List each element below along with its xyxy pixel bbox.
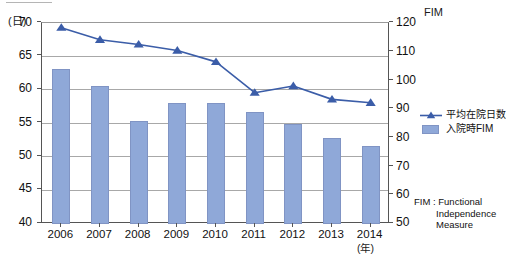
chart-footnote: FIM : Functional Independence Measure <box>414 196 496 231</box>
footnote-line-3: Measure <box>414 219 496 231</box>
y2-tick-mark-50 <box>389 222 393 223</box>
x-tick-label-2014: 2014 <box>350 228 390 240</box>
y2-tick-label-110: 110 <box>396 44 415 58</box>
x-tick-mark-2010 <box>215 223 216 227</box>
x-tick-mark-2006 <box>60 223 61 227</box>
legend-label-bar: 入院時FIM <box>446 122 493 136</box>
x-tick-mark-2007 <box>99 223 100 227</box>
y2-axis-unit-label: FIM <box>424 6 443 18</box>
line-marker-2012 <box>288 82 298 90</box>
bar-2008 <box>130 121 148 224</box>
x-tick-mark-2011 <box>254 223 255 227</box>
y2-tick-label-120: 120 <box>396 15 416 29</box>
bar-swatch-icon <box>422 125 439 134</box>
y2-tick-mark-110 <box>389 50 393 51</box>
bar-2010 <box>207 103 225 224</box>
bar-2007 <box>91 86 109 224</box>
footnote-line-2: Independence <box>414 208 496 220</box>
top-rule <box>6 2 52 3</box>
x-tick-mark-2013 <box>331 223 332 227</box>
line-marker-2009 <box>172 46 182 54</box>
line-marker-2010 <box>211 57 221 65</box>
y-tick-label-55: 55 <box>8 115 32 129</box>
y2-tick-mark-80 <box>389 136 393 137</box>
bar-2006 <box>52 69 70 224</box>
x-tick-label-2012: 2012 <box>272 228 312 240</box>
bar-2009 <box>168 103 186 224</box>
x-tick-label-2013: 2013 <box>311 228 351 240</box>
y-tick-label-45: 45 <box>8 181 32 195</box>
x-tick-mark-2009 <box>176 223 177 227</box>
line-marker-icon <box>420 110 442 120</box>
y-tick-label-40: 40 <box>8 215 32 229</box>
x-tick-label-2007: 2007 <box>79 228 119 240</box>
gridline-65 <box>42 56 388 57</box>
line-marker-2006 <box>56 23 66 31</box>
x-tick-label-2008: 2008 <box>118 228 158 240</box>
y2-tick-label-60: 60 <box>396 187 409 201</box>
y2-tick-mark-120 <box>389 21 393 22</box>
y2-tick-mark-100 <box>389 79 393 80</box>
x-tick-mark-2008 <box>138 223 139 227</box>
x-tick-label-2006: 2006 <box>40 228 80 240</box>
legend-item-line: 平均在院日数 <box>420 108 506 122</box>
y2-tick-label-100: 100 <box>396 73 416 87</box>
line-marker-2013 <box>327 95 337 103</box>
y2-tick-label-70: 70 <box>396 159 409 173</box>
bar-2011 <box>246 112 264 224</box>
y2-tick-mark-60 <box>389 193 393 194</box>
y2-tick-mark-70 <box>389 165 393 166</box>
legend-label-line: 平均在院日数 <box>446 108 506 122</box>
y-tick-label-60: 60 <box>8 81 32 95</box>
x-axis-unit-label: (年) <box>357 240 374 255</box>
chart-legend: 平均在院日数 入院時FIM <box>420 108 506 136</box>
y2-tick-label-90: 90 <box>396 101 409 115</box>
x-tick-mark-2014 <box>370 223 371 227</box>
x-tick-label-2011: 2011 <box>234 228 274 240</box>
line-marker-2008 <box>134 40 144 48</box>
line-marker-2007 <box>95 35 105 43</box>
bar-2012 <box>284 124 302 225</box>
x-tick-mark-2012 <box>292 223 293 227</box>
y-tick-label-65: 65 <box>8 48 32 62</box>
bar-2013 <box>323 138 341 224</box>
y2-tick-mark-90 <box>389 107 393 108</box>
footnote-line-1: FIM : Functional <box>414 196 496 208</box>
line-marker-2014 <box>366 98 376 106</box>
x-tick-label-2009: 2009 <box>156 228 196 240</box>
plot-area <box>41 22 389 223</box>
y-tick-label-50: 50 <box>8 148 32 162</box>
y2-tick-label-50: 50 <box>396 215 409 229</box>
y2-tick-label-80: 80 <box>396 130 409 144</box>
x-tick-label-2010: 2010 <box>195 228 235 240</box>
bar-2014 <box>362 146 380 224</box>
legend-item-bar: 入院時FIM <box>420 122 506 136</box>
y-tick-label-70: 70 <box>8 15 32 29</box>
